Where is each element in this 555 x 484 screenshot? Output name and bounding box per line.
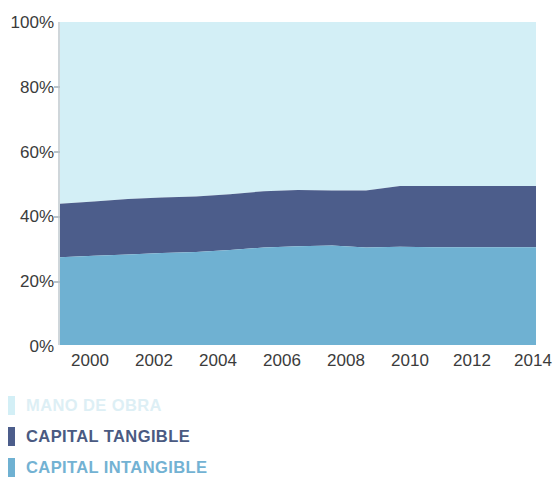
area-series-group — [60, 22, 536, 345]
y-tick-label-20: 20% — [0, 273, 54, 290]
legend-swatch-icon-capital-tangible — [8, 427, 15, 446]
area-mano-de-obra — [60, 22, 536, 204]
x-tick-label-2002: 2002 — [135, 352, 173, 369]
x-tick-label-2006: 2006 — [263, 352, 301, 369]
legend-item-mano-de-obra: MANO DE OBRA — [8, 390, 408, 421]
x-axis: 2000 2002 2004 2006 2008 2010 2012 2014 — [0, 352, 555, 378]
legend-item-capital-tangible: CAPITAL TANGIBLE — [8, 421, 408, 452]
y-tick-label-80: 80% — [0, 79, 54, 96]
stacked-area-chart: 100% 80% 60% 40% 20% 0% 2000 2002 2004 2… — [0, 0, 555, 484]
y-tick-label-60: 60% — [0, 144, 54, 161]
chart-legend: MANO DE OBRA CAPITAL TANGIBLE CAPITAL IN… — [8, 390, 408, 483]
plot-svg — [60, 22, 536, 345]
legend-label-capital-tangible: CAPITAL TANGIBLE — [26, 427, 190, 446]
legend-label-mano-de-obra: MANO DE OBRA — [26, 396, 162, 415]
x-tick-label-2014: 2014 — [514, 352, 552, 369]
y-tick-label-100: 100% — [0, 14, 54, 31]
legend-item-capital-intangible: CAPITAL INTANGIBLE — [8, 452, 408, 483]
x-tick-label-2000: 2000 — [71, 352, 109, 369]
x-tick-label-2008: 2008 — [327, 352, 365, 369]
area-capital-intangible — [60, 246, 536, 345]
plot-area — [60, 22, 536, 345]
legend-swatch-icon-capital-intangible — [8, 458, 15, 477]
x-tick-label-2012: 2012 — [453, 352, 491, 369]
legend-swatch-icon-mano-de-obra — [8, 396, 15, 415]
x-tick-label-2010: 2010 — [391, 352, 429, 369]
legend-label-capital-intangible: CAPITAL INTANGIBLE — [26, 458, 207, 477]
x-tick-label-2004: 2004 — [199, 352, 237, 369]
y-tick-label-40: 40% — [0, 208, 54, 225]
